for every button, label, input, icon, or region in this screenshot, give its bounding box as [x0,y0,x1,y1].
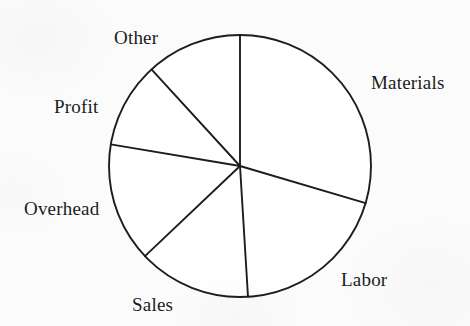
pie-slice-label-sales: Sales [132,295,173,314]
pie-slice-label-other: Other [114,28,158,47]
pie-chart-graphic [0,0,470,326]
pie-chart-figure: Other Materials Profit Overhead Sales La… [0,0,470,326]
pie-slice-label-labor: Labor [341,270,387,289]
pie-slice-label-materials: Materials [371,73,445,92]
pie-slice-label-overhead: Overhead [24,199,99,218]
pie-slice-label-profit: Profit [54,97,98,116]
